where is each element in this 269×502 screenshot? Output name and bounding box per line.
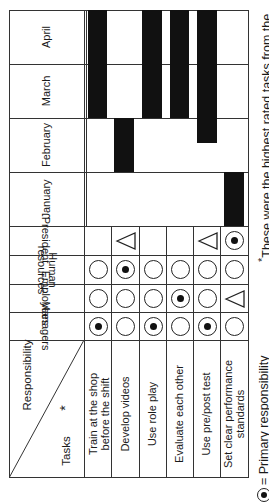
cell-mgr-evaluate (166, 313, 195, 340)
circle-icon (116, 289, 135, 308)
cell-hr-pre-post (193, 256, 222, 283)
circle-icon (171, 317, 190, 336)
triangle-icon (115, 231, 137, 251)
cell-emp-develop-videos (111, 285, 140, 312)
month-label-april: April (40, 7, 52, 67)
task-label-use-role-play: Use role play (146, 351, 158, 477)
circle-icon (144, 260, 163, 279)
triangle-icon (197, 231, 219, 251)
task-label-train-line1: Train at the shop (87, 351, 99, 477)
header-tasks-asterisk: * (57, 405, 73, 410)
cell-mgr-develop-videos (111, 313, 140, 340)
month-label-february: February (40, 115, 52, 175)
bar-train-at-shop (88, 10, 107, 118)
primary-responsibility-icon (116, 260, 135, 279)
cell-hr-develop-videos (111, 256, 140, 283)
circle-icon (225, 260, 244, 279)
task-label-standards-line2: standards (234, 351, 246, 477)
header-responsibility-label: Responsibility (21, 330, 35, 420)
footnote-asterisk: * (256, 258, 268, 262)
cell-president-set-standards (220, 227, 249, 254)
cell-mgr-train (84, 313, 113, 340)
triangle-icon (224, 289, 246, 309)
task-label-develop-videos: Develop videos (119, 351, 131, 477)
circle-icon (116, 317, 135, 336)
task-label-standards-line1: Set clear performance (222, 351, 234, 477)
circle-icon (198, 289, 217, 308)
cell-mgr-standards (220, 313, 249, 340)
task-label-set-standards: Set clear performance standards (222, 351, 246, 477)
task-label-use-pre-post-test: Use pre/post test (200, 351, 212, 477)
cell-hr-evaluate (166, 256, 195, 283)
cell-president-develop-videos (111, 227, 140, 254)
cell-hr-role-play (139, 256, 168, 283)
primary-responsibility-icon (171, 289, 190, 308)
bar-use-role-play (142, 10, 162, 118)
bar-evaluate-each-other (170, 10, 189, 118)
circle-icon (89, 260, 108, 279)
primary-responsibility-icon (89, 317, 108, 336)
cell-emp-role-play (139, 285, 168, 312)
cell-president-pre-post-test (193, 227, 222, 254)
header-tasks-label: Tasks (60, 431, 74, 471)
task-label-train-line2: before the shift (99, 351, 111, 477)
bar-set-standards (224, 172, 244, 226)
cell-hr-train (84, 256, 113, 283)
cell-emp-evaluate (166, 285, 195, 312)
cell-emp-train (84, 285, 113, 312)
footnote-text: These were the highest rated tasks from … (260, 14, 269, 258)
circle-icon (225, 317, 244, 336)
footnote: *These were the highest rated tasks from… (255, 14, 269, 262)
bar-develop-videos (114, 118, 134, 172)
legend-primary-responsibility-icon (257, 488, 269, 502)
circle-icon (89, 289, 108, 308)
cell-emp-pre-post (193, 285, 222, 312)
circle-icon (198, 260, 217, 279)
task-label-evaluate-each-other: Evaluate each other (173, 351, 185, 477)
primary-responsibility-icon (144, 317, 163, 336)
circle-icon (171, 260, 190, 279)
circle-icon (144, 289, 163, 308)
cell-hr-standards (220, 256, 249, 283)
cell-mgr-pre-post (193, 313, 222, 340)
month-label-march: March (40, 61, 52, 121)
primary-responsibility-icon (225, 231, 244, 250)
primary-responsibility-icon (198, 317, 217, 336)
task-label-train-at-shop: Train at the shop before the shift (87, 351, 111, 477)
cell-emp-standards (220, 285, 249, 312)
bar-use-pre-post-test (197, 10, 217, 143)
legend-label: = Primary responsibility (257, 355, 269, 485)
cell-mgr-role-play (139, 313, 168, 340)
legend: = Primary responsibility (257, 355, 269, 502)
